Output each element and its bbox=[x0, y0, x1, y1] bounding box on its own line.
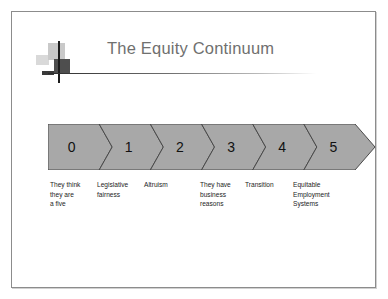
slide-frame: The Equity Continuum 012345 They thinkth… bbox=[11, 11, 376, 288]
stage-caption-group: They thinkthey area fiveLegislativefairn… bbox=[48, 180, 378, 224]
stage-caption-line: reasons bbox=[200, 199, 246, 209]
chevron-svg: 012345 bbox=[48, 124, 375, 170]
chevron-number-0: 0 bbox=[68, 139, 76, 155]
stage-caption-line: business bbox=[200, 190, 246, 200]
equity-continuum-chevron-band: 012345 bbox=[48, 124, 375, 170]
chevron-number-3: 3 bbox=[227, 139, 235, 155]
title-underline-rule bbox=[48, 73, 316, 74]
decoration-vertical-line bbox=[58, 41, 60, 83]
stage-caption-line: Legislative bbox=[97, 180, 143, 190]
stage-caption-4: Transition bbox=[245, 180, 291, 190]
chevron-number-2: 2 bbox=[176, 139, 184, 155]
stage-caption-2: Altruism bbox=[144, 180, 192, 190]
stage-caption-line: Equitable bbox=[293, 180, 353, 190]
stage-caption-line: they are bbox=[50, 190, 96, 200]
stage-caption-line: a five bbox=[50, 199, 96, 209]
slide-canvas: The Equity Continuum 012345 They thinkth… bbox=[0, 0, 388, 299]
stage-caption-line: They have bbox=[200, 180, 246, 190]
stage-caption-line: Systems bbox=[293, 199, 353, 209]
stage-caption-line: Transition bbox=[245, 180, 291, 190]
stage-caption-5: EquitableEmploymentSystems bbox=[293, 180, 353, 209]
chevron-number-1: 1 bbox=[125, 139, 133, 155]
chevron-number-4: 4 bbox=[278, 139, 286, 155]
stage-caption-3: They havebusinessreasons bbox=[200, 180, 246, 209]
stage-caption-line: Altruism bbox=[144, 180, 192, 190]
chevron-number-5: 5 bbox=[330, 139, 338, 155]
page-title: The Equity Continuum bbox=[107, 39, 337, 58]
stage-caption-1: Legislativefairness bbox=[97, 180, 143, 199]
stage-caption-0: They thinkthey area five bbox=[50, 180, 96, 209]
stage-caption-line: Employment bbox=[293, 190, 353, 200]
decoration-square-dark bbox=[54, 59, 70, 74]
stage-caption-line: fairness bbox=[97, 190, 143, 200]
decoration-square-gray bbox=[48, 43, 65, 60]
crosshair-decoration-icon bbox=[36, 41, 88, 83]
stage-caption-line: They think bbox=[50, 180, 96, 190]
